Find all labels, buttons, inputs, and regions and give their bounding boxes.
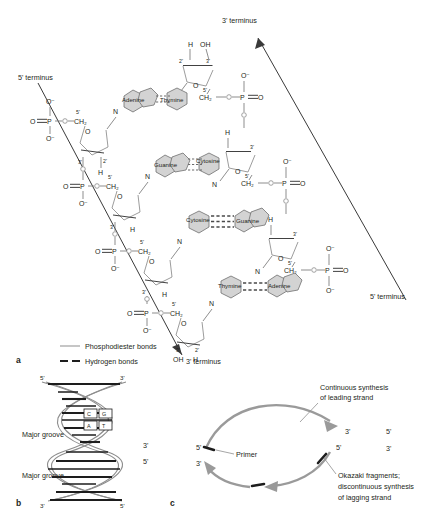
atom-o-double: O — [258, 94, 264, 101]
atom-o-minus-l2: O⁻ — [79, 200, 88, 207]
atom-o-minus-l1-up: O⁻ — [46, 98, 55, 105]
atom-h-l3: H — [162, 291, 167, 298]
carbon-2-label-l1: 2' — [103, 158, 107, 164]
atom-o-ring-l4: O — [181, 320, 187, 327]
carbon-3-label-l2: 3' — [110, 224, 114, 230]
atom-p-2: P — [282, 180, 287, 187]
atom-n-l4: N — [209, 300, 214, 307]
atom-h-l4: H — [193, 356, 198, 363]
atom-o-double-2: O — [300, 180, 306, 187]
base-letter-a: A — [87, 423, 91, 429]
atom-p-3: P — [325, 267, 330, 274]
atom-ch2-l1: CH₂ — [74, 118, 87, 125]
bridging-oxygen-down-2 — [284, 199, 289, 204]
five-prime-terminus-right-label: 5' terminus — [370, 292, 405, 301]
carbon-3-label-3: 3' — [293, 231, 297, 237]
bridging-oxygen-3 — [312, 268, 317, 273]
carbon-5-label-l4: 5' — [172, 301, 176, 307]
bridging-oxygen-2 — [269, 181, 274, 186]
five-prime-terminus-left-label: 5' terminus — [18, 73, 53, 82]
atom-p: P — [240, 94, 245, 101]
figure-root: 5' terminus 3' terminus 3' terminus 5' t… — [0, 0, 430, 510]
three-prime-terminus-top-label: 3' terminus — [222, 16, 257, 25]
atom-ch2-2: CH₂ — [241, 180, 254, 187]
atom-o-ring-l1: O — [85, 128, 91, 135]
atom-o-double-l3: O — [95, 248, 101, 255]
helix-end-label-top-left: 5' — [40, 374, 45, 381]
carbon-5-label-l1: 5' — [76, 109, 80, 115]
leading-strand-annotation-line2: of leading strand — [320, 393, 373, 402]
helix-end-label-bottom-left: 3' — [40, 502, 45, 509]
l-bridging-oxygen-2 — [81, 167, 86, 172]
atom-o-ring: O — [193, 82, 199, 89]
atom-o-minus-up-3: O⁻ — [326, 245, 335, 252]
panel-label-a: a — [16, 355, 21, 365]
legend-phosphodiester-label: Phosphodiester bonds — [85, 342, 157, 351]
l-bridging-oxygen-7 — [159, 311, 164, 316]
base-label-thymine-1: Thymine — [160, 96, 184, 103]
atom-n-l3: N — [177, 238, 182, 245]
base-label-guanine-3: Guanine — [236, 217, 260, 224]
l-bridging-oxygen-1 — [63, 119, 68, 124]
atom-o-double-l2: O — [63, 183, 69, 190]
atom-o-ring-l3: O — [149, 258, 155, 265]
l-bridging-oxygen-5 — [127, 249, 132, 254]
atom-p-l3: P — [112, 248, 117, 255]
helix-end-label-top-right: 3' — [120, 374, 125, 381]
template-top-label: 5' — [386, 427, 392, 436]
atom-h3: H — [268, 216, 273, 223]
base-label-adenine-1: Adenine — [122, 96, 145, 103]
atom-p-l2: P — [80, 183, 85, 190]
helix-side-label-5prime: 5' — [143, 457, 149, 466]
carbon-5-label-2: 5' — [245, 173, 249, 179]
template-bottom-label: 3' — [386, 444, 392, 453]
major-groove-label-1: Major groove — [22, 430, 64, 439]
primer-annotation-label: Primer — [236, 450, 258, 459]
three-prime-terminus-bottom-label: 3' terminus — [186, 357, 221, 366]
bridging-oxygen-down — [242, 113, 247, 118]
okazaki-annotation-line1: Okazaki fragments; — [338, 471, 400, 480]
atom-ch2-l4: CH₂ — [170, 310, 183, 317]
atom-oh-l4: OH — [173, 356, 184, 363]
atom-o-minus-up: O⁻ — [241, 72, 250, 79]
carbon-5-label: 5' — [203, 87, 207, 93]
atom-o-minus-up-2: O⁻ — [283, 158, 292, 165]
carbon-3-label-l1: 3' — [78, 159, 82, 165]
panel-label-b: b — [16, 498, 21, 508]
l-bridging-oxygen-6 — [145, 297, 150, 302]
dna-figure: 5' terminus 3' terminus 3' terminus 5' t… — [0, 0, 430, 510]
base-box-t — [99, 421, 112, 430]
base-label-cytosine-2: Cytosine — [196, 157, 220, 164]
atom-n-l1: N — [113, 108, 118, 115]
carbon-2-label: 2' — [179, 58, 183, 64]
atom-h2: H — [225, 129, 230, 136]
fork-right-bottom-label: 5' — [336, 443, 342, 452]
fork-left-bottom-label: 3' — [196, 459, 202, 468]
leading-strand-annotation-line1: Continuous synthesis — [320, 383, 389, 392]
atom-h: H — [188, 41, 193, 48]
atom-o-minus-l3: O⁻ — [111, 265, 120, 272]
atom-ch2: CH₂ — [199, 94, 212, 101]
carbon-3-label-2: 3' — [250, 144, 254, 150]
major-groove-label-2: Major groove — [22, 471, 64, 480]
atom-ch2-l2: CH₂ — [106, 183, 119, 190]
atom-o-ring-3: O — [278, 255, 284, 262]
helix-end-label-bottom-right: 5' — [120, 502, 125, 509]
base-label-guanine-2: Guanine — [154, 161, 178, 168]
carbon-2-label-l4: 2' — [195, 347, 199, 353]
atom-oh: OH — [200, 41, 211, 48]
panel-label-c: c — [170, 498, 175, 508]
atom-ch2-l3: CH₂ — [138, 248, 151, 255]
l-bridging-oxygen-3 — [95, 184, 100, 189]
atom-n-3: N — [255, 268, 260, 275]
atom-o-double-l1: O — [30, 118, 36, 125]
atom-o-ring-l2: O — [117, 193, 123, 200]
atom-o-double-l4: O — [127, 310, 133, 317]
base-label-thymine-4: Thymine — [218, 282, 242, 289]
l-bridging-oxygen-4 — [113, 232, 118, 237]
okazaki-annotation-line3: of lagging strand — [338, 493, 391, 502]
carbon-5-label-l3: 5' — [140, 239, 144, 245]
carbon-5-label-3: 5' — [288, 260, 292, 266]
atom-o-minus-l1-down: O⁻ — [46, 135, 55, 142]
atom-n-2: N — [212, 181, 217, 188]
